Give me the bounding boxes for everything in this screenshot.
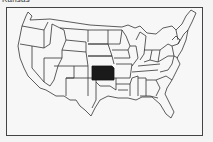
us-outline <box>18 10 196 118</box>
us-map <box>0 0 213 142</box>
kansas-state[interactable] <box>92 66 114 80</box>
